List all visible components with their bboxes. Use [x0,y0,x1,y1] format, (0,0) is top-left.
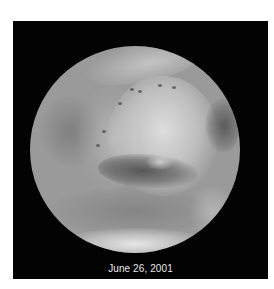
crater [96,144,100,147]
crater [118,102,122,105]
eastern-dark-patch [205,98,240,153]
crater [172,86,176,89]
image-caption: June 26, 2001 [13,263,268,274]
crater [130,88,134,91]
eastern-bright-haze [190,186,235,236]
crater [158,84,162,87]
image-panel: June 26, 2001 [13,21,268,279]
canyon-bright-spot [145,154,175,170]
planet-disk [30,46,240,253]
southern-polar-region [60,228,210,253]
crater [138,90,142,93]
crater [102,130,106,133]
